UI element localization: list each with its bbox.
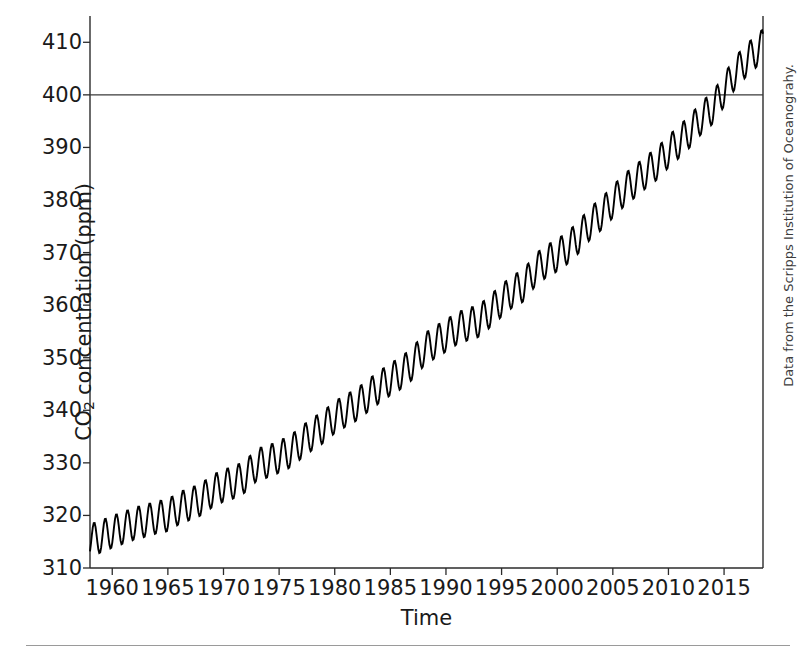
x-tick-label: 2015 bbox=[684, 578, 764, 599]
x-axis-tick-labels: 1960196519701975198019851990199520002005… bbox=[0, 0, 805, 662]
x-axis-title: Time bbox=[90, 606, 763, 630]
footer-rule bbox=[26, 645, 790, 646]
co2-concentration-chart: CO2 concentration (ppm) 3103203303403503… bbox=[0, 0, 805, 662]
source-credit: Data from the Scripps Institution of Oce… bbox=[781, 56, 796, 396]
